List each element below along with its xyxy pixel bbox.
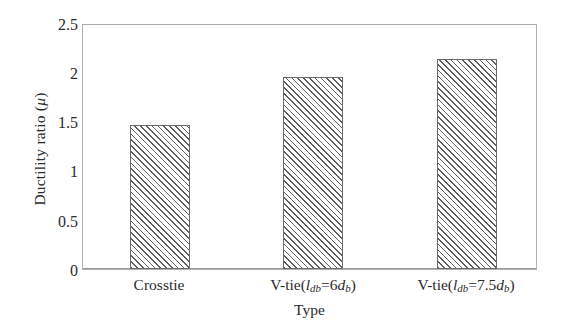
x-tick-label-v-tie-6db: V-tie(ldb=6db) (228, 276, 398, 295)
x-tick-sub-db: db (457, 282, 468, 294)
x-tick-prefix: V-tie( (417, 276, 453, 293)
x-axis-tick-labels: Crosstie V-tie(ldb=6db) V-tie(ldb=7.5db) (82, 276, 537, 302)
bar-crosstie (130, 125, 190, 269)
x-axis-title: Type (82, 301, 537, 319)
y-tick-label-2: 2 (32, 66, 78, 82)
bar-chart-figure: Ductility ratio (μ) 2.5 2 1.5 1 0.5 0 Cr… (0, 0, 567, 332)
y-tick-label-0: 0 (32, 263, 78, 279)
x-tick-equals: = (468, 276, 477, 293)
x-tick-prefix: V-tie( (270, 276, 306, 293)
x-tick-label-crosstie: Crosstie (74, 276, 244, 293)
x-tick-suffix: ) (351, 276, 356, 293)
bar-v-tie-7.5db (437, 59, 497, 269)
x-tick-equals: = (321, 276, 330, 293)
plot-area (82, 24, 537, 270)
x-tick-number: 7.5 (477, 276, 496, 293)
x-tick-sub-db: db (310, 282, 321, 294)
y-tick-label-1.5: 1.5 (32, 115, 78, 131)
x-tick-var-d: d (496, 276, 504, 293)
x-tick-suffix: ) (509, 276, 514, 293)
y-axis-tick-labels: 2.5 2 1.5 1 0.5 0 (28, 0, 78, 332)
y-tick-label-2.5: 2.5 (32, 17, 78, 33)
x-tick-label-v-tie-7.5db: V-tie(ldb=7.5db) (381, 276, 551, 295)
x-tick-text-crosstie: Crosstie (134, 276, 185, 293)
y-tick-label-1: 1 (32, 164, 78, 180)
y-tick-label-0.5: 0.5 (32, 214, 78, 230)
bar-v-tie-6db (283, 77, 343, 269)
